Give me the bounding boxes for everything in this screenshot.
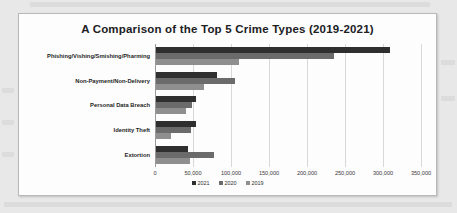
plot-area: 050,000100,000150,000200,000250,000300,0… xyxy=(155,44,421,167)
legend-item-2019[interactable]: 2019 xyxy=(246,180,264,186)
gridline xyxy=(421,44,422,167)
bar-2019 xyxy=(156,133,171,139)
category-label: Identity Theft xyxy=(114,127,150,133)
chart-title: A Comparison of the Top 5 Crime Types (2… xyxy=(19,23,436,35)
legend-item-2020[interactable]: 2020 xyxy=(219,180,237,186)
tick-label: 250,000 xyxy=(335,170,355,176)
tick-label: 350,000 xyxy=(411,170,431,176)
bar-group: Extortion xyxy=(155,142,421,167)
tick-label: 150,000 xyxy=(259,170,279,176)
bar-group: Phishing/Vishing/Smishing/Pharming xyxy=(155,44,421,69)
legend-item-2021[interactable]: 2021 xyxy=(192,180,210,186)
bar-2019 xyxy=(156,108,186,114)
tick-label: 300,000 xyxy=(373,170,393,176)
bar-group: Identity Theft xyxy=(155,118,421,143)
legend-swatch-icon xyxy=(192,181,196,185)
legend-label: 2019 xyxy=(252,180,264,186)
category-label: Personal Data Breach xyxy=(90,102,150,108)
category-label: Extortion xyxy=(125,152,150,158)
chart-card: A Comparison of the Top 5 Crime Types (2… xyxy=(18,13,437,196)
bar-2019 xyxy=(156,59,239,65)
tick-label: 50,000 xyxy=(184,170,201,176)
bar-group: Non-Payment/Non-Delivery xyxy=(155,69,421,94)
tick-label: 200,000 xyxy=(297,170,317,176)
category-label: Phishing/Vishing/Smishing/Pharming xyxy=(47,53,150,59)
legend-label: 2020 xyxy=(225,180,237,186)
legend-swatch-icon xyxy=(219,181,223,185)
tick-label: 100,000 xyxy=(221,170,241,176)
tick-label: 0 xyxy=(153,170,156,176)
chart-legend: 202120202019 xyxy=(19,180,436,186)
bar-2019 xyxy=(156,158,190,164)
legend-swatch-icon xyxy=(246,181,250,185)
bar-2019 xyxy=(156,84,204,90)
bar-group: Personal Data Breach xyxy=(155,93,421,118)
category-label: Non-Payment/Non-Delivery xyxy=(75,78,150,84)
legend-label: 2021 xyxy=(198,180,210,186)
